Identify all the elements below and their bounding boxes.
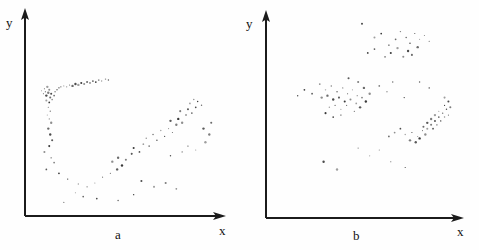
axes-b [262,10,464,222]
data-point [133,194,134,195]
data-point [334,105,335,106]
data-point [210,122,212,124]
data-point [394,132,396,134]
data-point [418,137,420,139]
data-point [369,155,370,156]
data-point [329,107,330,108]
data-point [380,33,382,35]
data-point [48,89,50,91]
data-point [392,81,393,82]
panel-a: y x a [0,0,239,250]
data-point [156,140,157,141]
data-point [429,41,430,42]
data-point [416,46,418,48]
data-point [185,114,187,116]
data-point [69,84,70,85]
data-point [426,122,428,124]
data-point [50,122,52,124]
data-point [67,178,68,179]
data-point [86,186,87,187]
data-point [121,164,123,166]
data-point [170,155,171,156]
panel-b: y x b [240,0,479,250]
data-point [125,159,127,161]
data-point [449,106,451,108]
data-point [117,200,118,201]
data-point [45,169,47,171]
data-point [390,161,391,162]
data-point [50,93,52,95]
data-point [404,134,405,135]
data-point [373,36,375,38]
data-point [58,172,60,174]
data-point [367,52,369,54]
data-point [89,82,91,84]
data-point [51,139,53,141]
data-point [446,109,447,110]
data-point [396,47,398,49]
data-point [60,86,61,87]
data-point [82,196,84,198]
data-point [409,139,411,141]
data-point [45,99,47,101]
data-point [297,95,298,96]
data-point [179,110,181,112]
data-point [102,177,103,178]
data-point [336,168,338,170]
data-point [440,120,441,121]
data-point [45,94,47,96]
data-point [411,54,413,56]
data-point [78,183,79,184]
data-point [49,97,51,99]
data-point [354,111,355,112]
data-point [148,145,150,147]
data-point [168,128,169,129]
data-point [379,149,380,150]
data-point [47,127,49,129]
data-point [164,136,165,137]
data-point [419,39,420,40]
data-point [426,128,428,130]
data-point [319,83,321,85]
data-point [48,145,50,147]
data-point [322,161,324,163]
data-point [46,86,48,88]
data-point [411,132,412,133]
data-point [342,87,343,88]
data-point [66,86,67,87]
data-point [49,133,51,135]
data-point [50,111,51,112]
data-points-a [41,78,212,203]
data-point [47,92,49,94]
data-point [160,130,161,131]
data-point [419,81,420,82]
data-point [414,33,415,34]
data-point [434,114,436,116]
data-point [311,93,313,95]
data-point [45,91,46,92]
data-point [417,136,418,137]
data-point [409,43,410,44]
data-point [374,48,376,50]
data-point [75,192,76,193]
data-point [56,89,57,90]
data-point [340,109,341,110]
data-point [44,88,45,89]
data-point [438,116,440,118]
data-point [424,35,425,36]
data-point [436,124,438,126]
data-point [430,118,432,120]
data-point [94,182,95,183]
x-axis-label-a: x [219,224,226,237]
data-point [348,77,350,79]
data-point [434,120,436,122]
data-point [74,83,76,85]
data-point [111,160,113,162]
data-point [340,114,342,116]
data-point [422,130,423,131]
data-point [53,162,55,164]
data-point [54,91,55,92]
data-point [96,198,98,200]
data-points-b [297,23,451,171]
data-point [177,118,179,120]
